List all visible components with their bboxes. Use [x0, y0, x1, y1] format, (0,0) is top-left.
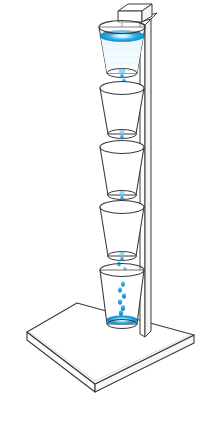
- cup-2-forming-drip: [119, 130, 124, 134]
- droplet: [122, 293, 126, 299]
- droplet: [121, 281, 125, 286]
- cup-4-forming-drip: [119, 252, 124, 256]
- cup-4-empty: [100, 201, 144, 261]
- cup-3-empty: [100, 141, 144, 200]
- cup-1-forming-drip: [119, 68, 125, 73]
- cup-3-forming-drip: [119, 191, 124, 195]
- droplet: [119, 310, 123, 316]
- cup-4-body: [100, 207, 144, 256]
- pole-side-face: [145, 19, 151, 337]
- droplet: [121, 305, 125, 311]
- cup-5-bottom-collecting: [100, 264, 144, 329]
- cup-5-rim: [100, 264, 144, 277]
- droplet: [118, 287, 122, 292]
- droplet: [120, 196, 123, 201]
- vertical-pole: [140, 13, 157, 337]
- cup-3-body: [100, 147, 144, 195]
- droplet: [120, 135, 123, 140]
- cup-3-rim: [100, 141, 144, 154]
- stacked-cups-water-drip-illustration: Water dripping through stacked cups on a…: [0, 0, 211, 422]
- cup-2-rim: [100, 82, 144, 95]
- illustration-canvas: Water dripping through stacked cups on a…: [0, 0, 211, 422]
- droplet: [120, 74, 123, 79]
- droplet: [120, 257, 123, 262]
- cup-2-empty: [100, 82, 144, 139]
- cup-1-rim: [99, 21, 145, 34]
- droplet: [118, 299, 122, 305]
- cup-4-rim: [100, 201, 144, 214]
